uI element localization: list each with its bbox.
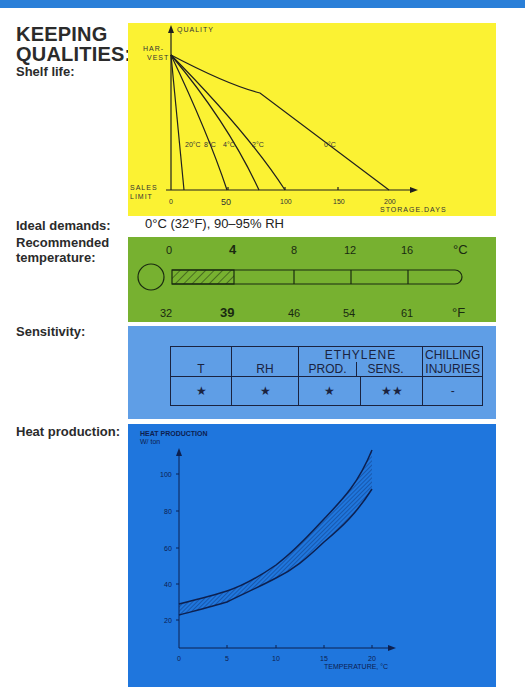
svg-text:HAR-: HAR- <box>143 45 164 52</box>
value-ethylene-sens: ★★ <box>361 377 423 406</box>
svg-text:100: 100 <box>160 471 172 478</box>
section-title-line1: KEEPING <box>16 24 107 44</box>
ideal-demands-value: 0°C (32°F), 90–95% RH <box>145 216 284 231</box>
y-axis-label: QUALITY <box>177 26 214 34</box>
top-color-bar <box>0 0 525 8</box>
value-chilling-injuries: - <box>423 377 483 406</box>
svg-text:20: 20 <box>164 617 172 624</box>
svg-text:40: 40 <box>164 581 172 588</box>
svg-text:8: 8 <box>291 244 297 256</box>
svg-text:0°C: 0°C <box>324 141 336 148</box>
svg-text:80: 80 <box>164 508 172 515</box>
shelf-life-chart: QUALITY HAR- VEST SALES LIMIT 0 50 100 1… <box>128 23 496 216</box>
shelf-life-label: Shelf life: <box>16 64 75 79</box>
svg-text:°C: °C <box>453 242 468 257</box>
svg-text:10: 10 <box>272 655 280 662</box>
svg-text:8°C: 8°C <box>204 141 216 148</box>
svg-text:4: 4 <box>229 242 237 257</box>
section-title-line2: QUALITIES: <box>16 44 131 64</box>
svg-text:2°C: 2°C <box>252 141 264 148</box>
svg-text:12: 12 <box>344 244 356 256</box>
heat-production-label: Heat production: <box>16 424 120 439</box>
svg-text:0: 0 <box>169 198 173 205</box>
svg-text:16: 16 <box>401 244 413 256</box>
header-chilling-injuries: CHILLING INJURIES <box>423 347 483 377</box>
svg-text:5: 5 <box>225 655 229 662</box>
svg-text:SALES: SALES <box>130 184 158 191</box>
svg-text:46: 46 <box>288 307 300 319</box>
value-t: ★ <box>171 377 232 406</box>
svg-text:61: 61 <box>401 307 413 319</box>
sensitivity-panel: T RH ETHYLENE PROD. SENS. CHILLING INJUR… <box>128 326 496 419</box>
recommended-temperature-thermometer: 0 4 8 12 16 °C 32 39 46 54 61 °F <box>128 237 496 322</box>
header-rh: RH <box>232 347 299 377</box>
ideal-demands-label: Ideal demands: <box>16 218 111 233</box>
svg-text:4°C: 4°C <box>223 141 235 148</box>
svg-text:LIMIT: LIMIT <box>130 193 153 200</box>
svg-text:W/ ton: W/ ton <box>140 438 160 445</box>
sensitivity-label: Sensitivity: <box>16 324 85 339</box>
value-rh: ★ <box>232 377 299 406</box>
header-t: T <box>171 347 232 377</box>
recommended-temp-label-1: Recommended <box>16 235 109 250</box>
header-ethylene: ETHYLENE PROD. SENS. <box>299 347 423 377</box>
svg-text:100: 100 <box>280 198 292 205</box>
svg-text:HEAT PRODUCTION: HEAT PRODUCTION <box>140 430 208 437</box>
svg-text:STORAGE.DAYS: STORAGE.DAYS <box>380 206 447 213</box>
svg-text:200: 200 <box>384 198 396 205</box>
svg-text:32: 32 <box>160 307 172 319</box>
svg-text:TEMPERATURE, °C: TEMPERATURE, °C <box>324 663 388 670</box>
svg-text:60: 60 <box>164 545 172 552</box>
svg-text:0: 0 <box>177 655 181 662</box>
heat-production-chart: HEAT PRODUCTION W/ ton 20 40 60 80 100 0 <box>128 424 496 687</box>
svg-text:VEST: VEST <box>147 54 169 61</box>
recommended-temp-label-2: temperature: <box>16 250 95 265</box>
svg-text:39: 39 <box>220 305 234 320</box>
value-ethylene-prod: ★ <box>299 377 361 406</box>
svg-text:50: 50 <box>221 197 231 207</box>
svg-text:°F: °F <box>452 305 465 320</box>
svg-text:15: 15 <box>320 655 328 662</box>
svg-text:20: 20 <box>368 655 376 662</box>
sensitivity-table: T RH ETHYLENE PROD. SENS. CHILLING INJUR… <box>170 346 483 406</box>
svg-text:0: 0 <box>166 244 172 256</box>
svg-text:150: 150 <box>333 198 345 205</box>
svg-text:20°C: 20°C <box>185 141 201 148</box>
svg-text:54: 54 <box>343 307 355 319</box>
